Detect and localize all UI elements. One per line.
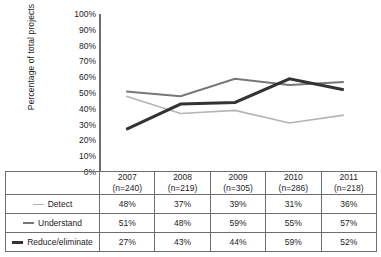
column-header-sample-size: (n=218) [322, 183, 376, 194]
y-axis-tick-60: 60% [56, 72, 96, 82]
y-axis-tick-50: 50% [56, 88, 96, 98]
column-header-year: 2009 [211, 172, 265, 183]
data-cell: 55% [266, 214, 321, 233]
legend-line-swatch-icon [23, 222, 34, 224]
table-corner-blank [6, 172, 100, 195]
column-header-2011: 2011(n=218) [321, 172, 376, 195]
table-row: Understand51%48%59%55%57% [6, 214, 377, 233]
legend-line-swatch-icon [33, 204, 44, 205]
data-cell: 43% [155, 233, 210, 252]
data-cell: 57% [321, 214, 376, 233]
data-cell: 39% [210, 195, 265, 214]
y-axis-tick-90: 90% [56, 25, 96, 35]
data-cell: 31% [266, 195, 321, 214]
series-line-reduce-eliminate [126, 79, 344, 130]
data-cell: 51% [100, 214, 155, 233]
table-body: Detect48%37%39%31%36%Understand51%48%59%… [6, 195, 377, 252]
data-cell: 36% [321, 195, 376, 214]
y-axis-tick-80: 80% [56, 41, 96, 51]
y-axis-tick-10: 10% [56, 151, 96, 161]
legend-label: Understand [38, 218, 82, 228]
data-cell: 44% [210, 233, 265, 252]
table-head: 2007(n=240)2008(n=219)2009(n=305)2010(n=… [6, 172, 377, 195]
y-axis-title: Percentage of total projects [26, 0, 36, 132]
column-header-sample-size: (n=286) [266, 183, 320, 194]
series-lines [99, 14, 371, 172]
legend-item-reduce-eliminate[interactable]: Reduce/eliminate [6, 233, 100, 252]
legend-item-understand[interactable]: Understand [6, 214, 100, 233]
table-row: Detect48%37%39%31%36% [6, 195, 377, 214]
data-cell: 48% [155, 214, 210, 233]
series-line-understand [126, 79, 344, 96]
data-cell: 52% [321, 233, 376, 252]
column-header-year: 2010 [266, 172, 320, 183]
column-header-2010: 2010(n=286) [266, 172, 321, 195]
legend-item-detect[interactable]: Detect [6, 195, 100, 214]
data-cell: 48% [100, 195, 155, 214]
data-cell: 59% [266, 233, 321, 252]
column-header-2007: 2007(n=240) [100, 172, 155, 195]
y-axis-tick-100: 100% [56, 9, 96, 19]
column-header-sample-size: (n=240) [100, 183, 154, 194]
line-chart-with-data-table: Percentage of total projects 100%90%80%7… [0, 0, 381, 257]
column-header-2009: 2009(n=305) [210, 172, 265, 195]
y-axis-tick-70: 70% [56, 56, 96, 66]
data-table-container: 2007(n=240)2008(n=219)2009(n=305)2010(n=… [5, 171, 376, 252]
column-header-year: 2008 [155, 172, 209, 183]
series-line-detect [126, 96, 344, 123]
data-table: 2007(n=240)2008(n=219)2009(n=305)2010(n=… [5, 171, 377, 252]
y-axis-tick-40: 40% [56, 104, 96, 114]
legend-label: Detect [48, 199, 73, 209]
column-header-sample-size: (n=305) [211, 183, 265, 194]
data-cell: 37% [155, 195, 210, 214]
table-row: Reduce/eliminate27%43%44%59%52% [6, 233, 377, 252]
y-axis-tick-labels: 100%90%80%70%60%50%40%30%20%10%0% [56, 9, 96, 177]
column-header-year: 2011 [322, 172, 376, 183]
data-cell: 27% [100, 233, 155, 252]
y-axis-tick-20: 20% [56, 135, 96, 145]
column-header-sample-size: (n=219) [155, 183, 209, 194]
y-axis-tick-30: 30% [56, 120, 96, 130]
plot-area [99, 14, 371, 172]
legend-label: Reduce/eliminate [27, 237, 93, 247]
table-header-row: 2007(n=240)2008(n=219)2009(n=305)2010(n=… [6, 172, 377, 195]
legend-line-swatch-icon [12, 241, 23, 244]
column-header-year: 2007 [100, 172, 154, 183]
data-cell: 59% [210, 214, 265, 233]
column-header-2008: 2008(n=219) [155, 172, 210, 195]
